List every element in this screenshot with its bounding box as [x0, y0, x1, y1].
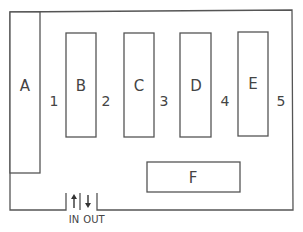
block-f-label: F: [189, 169, 198, 187]
aisle-5-label: 5: [277, 93, 286, 109]
entrance-out-label: OUT: [83, 214, 105, 225]
arrow-up-icon: [71, 194, 77, 208]
aisle-3-label: 3: [160, 93, 169, 109]
floor-plan: A B C D E F 1 2 3 4 5 IN OUT: [0, 0, 303, 232]
aisle-1-label: 1: [50, 93, 59, 109]
block-c-label: C: [134, 77, 144, 95]
arrow-down-icon: [85, 195, 91, 208]
block-e: E: [238, 32, 268, 136]
aisle-2-label: 2: [102, 93, 111, 109]
block-e-label: E: [248, 75, 257, 93]
block-b: B: [66, 33, 96, 137]
aisle-4-label: 4: [221, 93, 230, 109]
block-c: C: [124, 33, 154, 137]
block-a-label: A: [20, 77, 31, 95]
block-d-label: D: [190, 77, 202, 95]
block-b-label: B: [76, 77, 86, 95]
block-f: F: [147, 162, 240, 192]
block-d: D: [180, 33, 211, 137]
block-a: A: [10, 12, 40, 173]
entrance-in-label: IN: [69, 214, 79, 225]
